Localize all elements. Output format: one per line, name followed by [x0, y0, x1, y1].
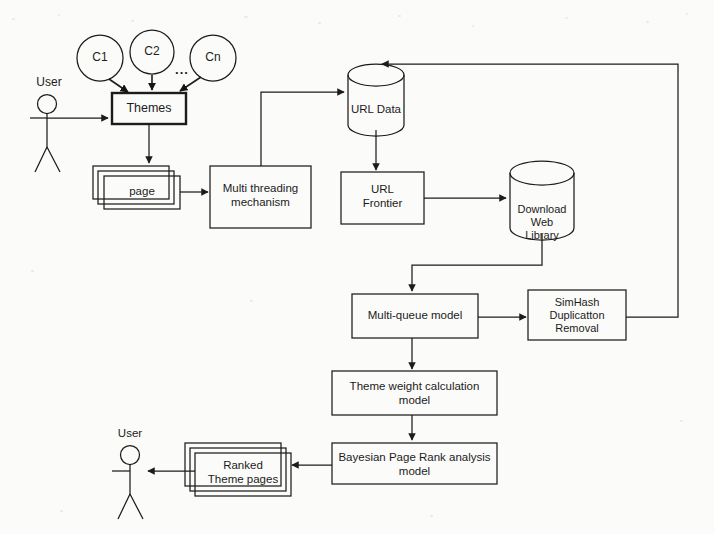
category-circle-cn — [190, 35, 236, 81]
edge-cn-themes — [180, 77, 201, 91]
node-download-lib-top — [510, 161, 574, 185]
node-multi-queue-model — [352, 294, 478, 338]
node-bayesian-pagerank — [332, 443, 497, 484]
node-multi-threading — [210, 166, 311, 228]
edge-c1-themes — [109, 79, 128, 92]
user-bottom-legs — [118, 494, 143, 519]
diagram-canvas: C1 C2 ... Cn User Themes page Multi thre… — [0, 0, 714, 534]
user-bottom-head — [121, 446, 140, 465]
diagram-vector-layer — [0, 0, 714, 534]
node-ranked-pages-layer1 — [195, 453, 291, 496]
node-url-data-top — [348, 64, 404, 86]
edge-simhash-urldata-feedback — [382, 64, 678, 317]
node-ranked-pages-layer3 — [185, 443, 281, 486]
node-download-lib-body — [510, 173, 574, 240]
node-url-frontier — [341, 172, 424, 224]
node-url-data-body — [348, 75, 404, 136]
node-theme-weight — [332, 371, 497, 415]
user-top-legs — [35, 147, 60, 172]
user-top-head — [38, 95, 57, 114]
edge-downloadlib-multiqueue — [412, 234, 542, 291]
edge-multithreading-urldata — [261, 92, 344, 166]
category-circle-c2 — [130, 30, 174, 74]
category-circle-c1 — [77, 35, 123, 81]
node-simhash-removal — [528, 290, 626, 340]
node-ranked-pages-layer2 — [190, 448, 286, 491]
node-themes — [112, 93, 186, 124]
